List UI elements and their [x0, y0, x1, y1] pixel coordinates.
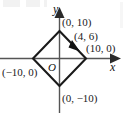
point-label-top: (0, 10) — [62, 17, 91, 28]
coordinate-plane-figure: (0, 10) (4, 6) (10, 0) (−10, 0) (0, −10)… — [0, 0, 125, 113]
point-label-edge-point: (4, 6) — [74, 31, 98, 42]
y-axis-label: y — [53, 3, 58, 15]
point-label-left: (−10, 0) — [2, 67, 38, 78]
point-label-right: (10, 0) — [86, 43, 115, 54]
point-label-bottom: (0, −10) — [62, 93, 98, 104]
x-axis-label: x — [110, 61, 115, 73]
x-axis — [0, 54, 121, 64]
origin-label: O — [48, 62, 56, 73]
